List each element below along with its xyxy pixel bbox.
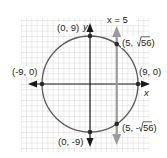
svg-text:): ) <box>152 37 155 48</box>
svg-text:(5, -: (5, - <box>122 122 139 133</box>
label-0-neg9: (0, -9) <box>58 136 83 147</box>
point-neg9-0 <box>40 82 45 87</box>
svg-text:(5,: (5, <box>122 37 133 48</box>
point-5-neg-sqrt56 <box>114 122 119 127</box>
label-line-x-equals-5: x = 5 <box>107 14 128 25</box>
label-9-0: (9, 0) <box>139 66 161 77</box>
point-5-sqrt56 <box>114 42 119 47</box>
svg-text:56: 56 <box>141 37 152 48</box>
coordinate-plane: (0, 9) (0, -9) (-9, 0) (9, 0) x = 5 (5, … <box>0 0 167 158</box>
point-0-neg9 <box>88 130 93 135</box>
label-neg9-0: (-9, 0) <box>12 66 37 77</box>
point-0-9 <box>88 34 93 39</box>
point-9-0 <box>136 82 141 87</box>
svg-text:): ) <box>154 122 157 133</box>
label-0-9: (0, 9) <box>57 22 79 33</box>
svg-text:56: 56 <box>143 122 154 133</box>
